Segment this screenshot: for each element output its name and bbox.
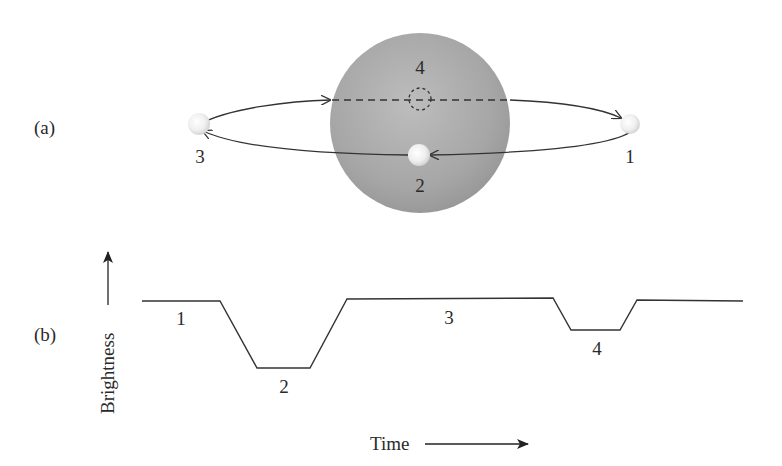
y-axis-label: Brightness [97, 333, 118, 414]
curve-label-4: 4 [592, 338, 602, 359]
curve-label-3: 3 [444, 307, 454, 328]
orbit-arc-top-right [510, 100, 621, 118]
panel-b: (b) Brightness 1 2 3 4 Time [34, 252, 743, 454]
orbit-arc-top-left [200, 100, 330, 124]
x-axis-label: Time [370, 433, 409, 454]
position-label-1: 1 [625, 146, 635, 167]
panel-b-label: (b) [34, 324, 56, 346]
light-curve [142, 298, 743, 368]
small-star-position-3 [188, 113, 210, 135]
position-label-2: 2 [415, 175, 425, 196]
small-star-position-2 [408, 144, 430, 166]
panel-a: (a) 1 2 3 4 [34, 33, 640, 213]
position-label-3: 3 [195, 146, 205, 167]
eclipsing-binary-diagram: (a) 1 2 3 4 (b) Brightness 1 2 3 4 [0, 0, 782, 466]
position-label-4: 4 [415, 57, 425, 78]
curve-label-2: 2 [279, 376, 289, 397]
small-star-position-1 [620, 114, 640, 134]
curve-label-1: 1 [176, 308, 186, 329]
panel-a-label: (a) [34, 117, 55, 139]
